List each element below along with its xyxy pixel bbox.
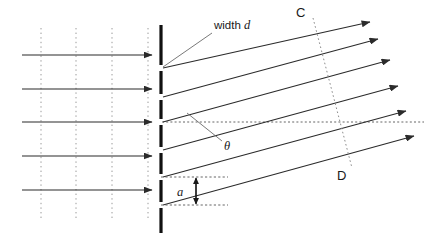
width-d-label: width d: [213, 18, 251, 32]
diffracted-ray-6: [163, 136, 414, 205]
diffracted-ray-2: [163, 39, 378, 97]
diffracted-ray-group: [163, 22, 414, 205]
point-c-label: C: [296, 5, 305, 20]
slit-spacing-label: a: [177, 185, 183, 199]
diagram-canvas: width d θ a C D: [0, 0, 424, 244]
point-d-label: D: [337, 168, 346, 183]
width-d-label-text: width: [213, 19, 241, 31]
diffracted-ray-3: [163, 60, 390, 122]
theta-leader-line: [187, 113, 222, 141]
diffracted-ray-5: [163, 111, 406, 177]
slit-spacing-marker: [161, 177, 228, 205]
cd-wavefront-line: [313, 18, 352, 168]
diffracted-ray-4: [163, 86, 398, 150]
theta-label: θ: [224, 139, 230, 153]
diffraction-diagram: width d θ a C D: [0, 0, 424, 244]
width-d-label-symbol: d: [241, 18, 251, 32]
width-d-leader-line: [163, 33, 212, 67]
